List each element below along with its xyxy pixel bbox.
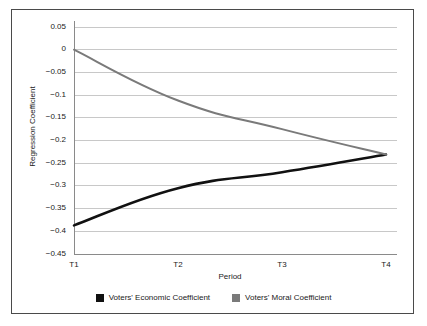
y-axis-title: Regression Coefficient xyxy=(28,62,37,192)
x-tick-label: T4 xyxy=(366,260,406,269)
x-tick-label: T2 xyxy=(158,260,198,269)
y-tick-label: 0 xyxy=(12,44,66,53)
x-axis-title: Period xyxy=(74,272,386,281)
y-tick-label: −0.2 xyxy=(12,135,66,144)
data-series xyxy=(74,50,386,226)
legend-label: Voters' Moral Coefficient xyxy=(245,293,331,302)
legend-label: Voters' Economic Coefficient xyxy=(109,293,210,302)
y-tick-label: −0.4 xyxy=(12,226,66,235)
y-tick-label: −0.25 xyxy=(12,158,66,167)
y-tick-label: −0.45 xyxy=(12,249,66,258)
series-line xyxy=(74,155,386,226)
legend-swatch-icon xyxy=(96,294,104,302)
y-tick-label: −0.15 xyxy=(12,112,66,121)
legend-entry: Voters' Economic Coefficient xyxy=(96,293,210,302)
chart-area: 0.050−0.05−0.1−0.15−0.2−0.25−0.3−0.35−0.… xyxy=(12,10,415,315)
axis-lines xyxy=(74,21,397,254)
legend-entry: Voters' Moral Coefficient xyxy=(232,293,331,302)
legend-swatch-icon xyxy=(232,294,240,302)
x-tick-label: T3 xyxy=(262,260,302,269)
y-tick-label: 0.05 xyxy=(12,22,66,31)
chart-legend: Voters' Economic CoefficientVoters' Mora… xyxy=(12,293,415,302)
y-tick-label: −0.3 xyxy=(12,180,66,189)
y-tick-label: −0.1 xyxy=(12,90,66,99)
y-tick-label: −0.05 xyxy=(12,67,66,76)
figure-frame: 0.050−0.05−0.1−0.15−0.2−0.25−0.3−0.35−0.… xyxy=(11,9,414,314)
gridlines xyxy=(74,27,397,254)
series-line xyxy=(74,50,386,155)
x-tick-label: T1 xyxy=(54,260,94,269)
plot-canvas xyxy=(12,10,415,315)
y-tick-label: −0.35 xyxy=(12,203,66,212)
